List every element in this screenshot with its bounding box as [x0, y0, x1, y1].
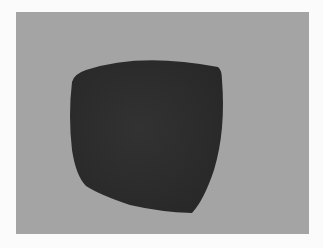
curved-surface-patch — [70, 60, 223, 213]
surface-render — [0, 0, 323, 248]
